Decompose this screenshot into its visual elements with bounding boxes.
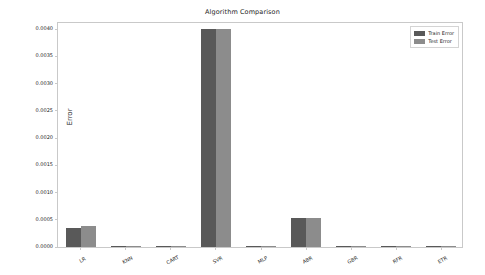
plot-area: Error 0.00000.00050.00100.00150.00200.00… — [57, 22, 463, 248]
x-tick-label: KNN — [108, 248, 146, 272]
chart-title: Algorithm Comparison — [0, 8, 485, 16]
bar-rfr-test — [396, 246, 411, 247]
x-tick-mark — [351, 247, 352, 250]
bar-lr-test — [81, 226, 96, 247]
x-tick-mark — [170, 247, 171, 250]
y-tick-mark — [55, 29, 58, 30]
x-tick-label: RFR — [379, 248, 417, 272]
bar-knn-train — [111, 246, 126, 247]
y-tick-label: 0.0035 — [36, 52, 54, 58]
legend-item-train-error: Train Error — [414, 29, 454, 37]
bar-lr-train — [66, 228, 81, 247]
y-tick-label: 0.0005 — [36, 216, 54, 222]
bar-etr-test — [441, 246, 456, 247]
x-tick-label: ABR — [288, 248, 326, 272]
bar-gbr-train — [336, 246, 351, 247]
bar-gbr-test — [351, 246, 366, 247]
legend-swatch-icon — [414, 31, 425, 36]
y-tick-label: 0.0025 — [36, 107, 54, 113]
bar-abr-test — [306, 218, 321, 247]
chart-figure: Algorithm Comparison Error 0.00000.00050… — [0, 0, 485, 275]
x-tick-mark — [215, 247, 216, 250]
bar-rfr-train — [381, 246, 396, 247]
bar-mlp-train — [246, 246, 261, 247]
x-tick-mark — [125, 247, 126, 250]
y-tick-mark — [55, 247, 58, 248]
x-tick-mark — [261, 247, 262, 250]
y-tick-mark — [55, 110, 58, 111]
x-tick-mark — [80, 247, 81, 250]
bar-etr-train — [426, 246, 441, 247]
y-tick-mark — [55, 165, 58, 166]
x-tick-mark — [441, 247, 442, 250]
bar-abr-train — [291, 218, 306, 247]
x-tick-label: LR — [63, 248, 101, 272]
bar-cart-train — [156, 246, 171, 247]
chart-legend: Train Error Test Error — [410, 26, 459, 48]
bar-svr-test — [216, 29, 231, 247]
x-tick-mark — [396, 247, 397, 250]
legend-swatch-icon — [414, 39, 425, 44]
y-tick-label: 0.0015 — [36, 161, 54, 167]
x-tick-label: GBR — [334, 248, 372, 272]
y-tick-mark — [55, 83, 58, 84]
y-tick-label: 0.0040 — [36, 25, 54, 31]
legend-item-test-error: Test Error — [414, 37, 454, 45]
bar-mlp-test — [261, 246, 276, 247]
x-tick-label: MLP — [243, 248, 281, 272]
y-tick-label: 0.0020 — [36, 134, 54, 140]
bar-knn-test — [126, 246, 141, 247]
y-tick-mark — [55, 138, 58, 139]
x-tick-label: CART — [153, 248, 191, 272]
bar-svr-train — [201, 29, 216, 247]
y-tick-label: 0.0010 — [36, 189, 54, 195]
y-tick-mark — [55, 219, 58, 220]
y-tick-label: 0.0030 — [36, 80, 54, 86]
legend-label: Test Error — [428, 38, 452, 44]
y-axis-label: Error — [66, 72, 74, 162]
x-tick-mark — [306, 247, 307, 250]
x-tick-label: ETR — [424, 248, 462, 272]
y-tick-mark — [55, 192, 58, 193]
x-tick-label: SVR — [198, 248, 236, 272]
legend-label: Train Error — [428, 30, 454, 36]
y-tick-mark — [55, 56, 58, 57]
bar-cart-test — [171, 246, 186, 247]
y-tick-label: 0.0000 — [36, 243, 54, 249]
